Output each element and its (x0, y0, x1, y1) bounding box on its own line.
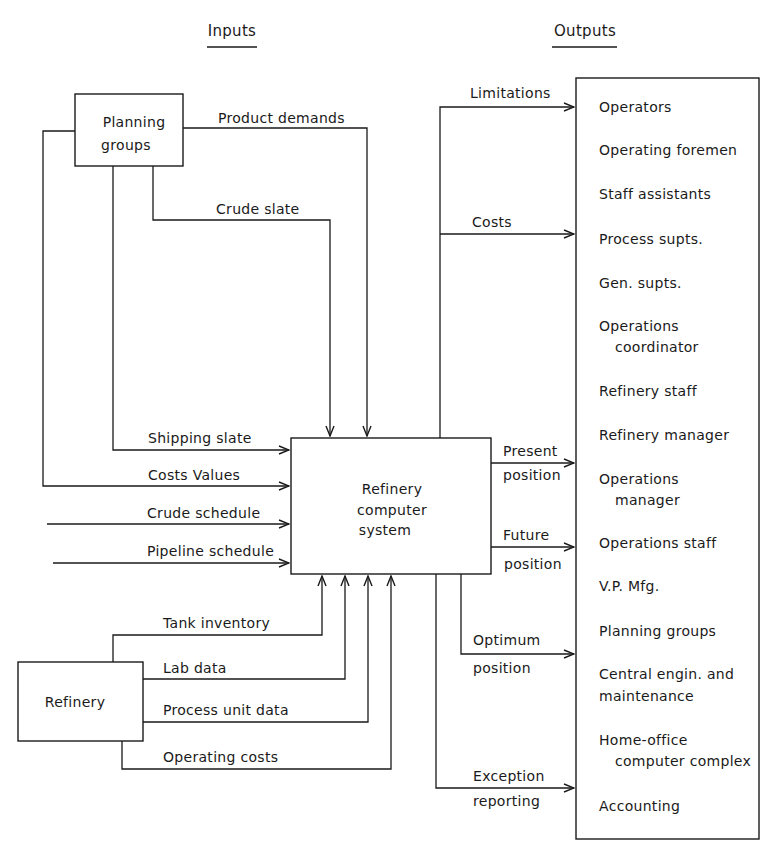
svg-text:Costs Values: Costs Values (148, 467, 240, 483)
flow-product-demands: Product demands (183, 110, 367, 436)
svg-text:Process unit data: Process unit data (163, 702, 289, 718)
svg-text:Tank inventory: Tank inventory (162, 615, 270, 631)
flow-present-position: Present position (491, 443, 574, 483)
svg-text:Pipeline schedule: Pipeline schedule (147, 543, 274, 559)
svg-text:Crude slate: Crude slate (216, 201, 300, 217)
flow-optimum-position: Optimum position (461, 574, 574, 676)
svg-text:position: position (503, 467, 561, 483)
recipient-item: maintenance (599, 688, 694, 704)
recipient-item: Accounting (599, 798, 680, 814)
svg-text:position: position (473, 660, 531, 676)
svg-text:Inputs: Inputs (208, 22, 256, 40)
flow-exception-reporting: Exception reporting (436, 574, 574, 809)
svg-text:computer: computer (357, 502, 427, 518)
recipient-item: Refinery staff (599, 383, 698, 399)
svg-text:Outputs: Outputs (554, 22, 616, 40)
svg-text:Optimum: Optimum (473, 632, 541, 648)
recipient-item: Operators (599, 99, 672, 115)
svg-text:Lab data: Lab data (163, 660, 227, 676)
recipient-item: Home-office (599, 732, 688, 748)
recipient-item: Operations staff (599, 535, 717, 551)
recipient-item: Staff assistants (599, 186, 711, 202)
svg-text:Future: Future (503, 527, 549, 543)
refinery-node: Refinery (18, 662, 143, 741)
flow-pipeline-schedule: Pipeline schedule (53, 543, 289, 563)
recipient-item: Gen. supts. (599, 275, 682, 291)
svg-text:Costs: Costs (472, 214, 512, 230)
flow-future-position: Future position (491, 527, 574, 572)
recipient-item: Operating foremen (599, 142, 737, 158)
flow-crude-slate: Crude slate (153, 166, 330, 436)
recipient-item: V.P. Mfg. (599, 578, 659, 594)
recipient-item: Operations (599, 471, 679, 487)
outputs-header: Outputs (552, 22, 617, 47)
svg-text:Product demands: Product demands (218, 110, 345, 126)
refinery-computer-system-node: Refinery computer system (291, 438, 491, 574)
recipient-item: manager (615, 492, 680, 508)
svg-text:Shipping slate: Shipping slate (148, 430, 252, 446)
flow-limitations: Limitations (440, 85, 574, 438)
svg-text:Limitations: Limitations (470, 85, 551, 101)
recipient-item: Planning groups (599, 623, 716, 639)
recipient-item: Central engin. and (599, 666, 734, 682)
svg-text:position: position (504, 556, 562, 572)
svg-text:Refinery: Refinery (362, 481, 422, 497)
planning-groups-node: Planning groups (75, 94, 183, 166)
flow-tank-inventory: Tank inventory (113, 576, 322, 662)
svg-text:Present: Present (503, 443, 558, 459)
svg-text:groups: groups (101, 137, 151, 153)
svg-text:Operating costs: Operating costs (163, 749, 278, 765)
svg-text:system: system (359, 522, 411, 538)
recipient-item: Refinery manager (599, 427, 729, 443)
svg-text:Crude schedule: Crude schedule (147, 505, 260, 521)
inputs-header: Inputs (207, 22, 257, 47)
flow-process-unit-data: Process unit data (143, 576, 368, 722)
flow-crude-schedule: Crude schedule (47, 505, 289, 524)
svg-text:Refinery: Refinery (45, 694, 105, 710)
recipient-item: Operations (599, 318, 679, 334)
svg-text:reporting: reporting (473, 793, 540, 809)
refinery-information-flow-diagram: Inputs Outputs Planning groups Refinery … (0, 0, 780, 864)
recipient-item: Process supts. (599, 231, 703, 247)
svg-text:Exception: Exception (473, 768, 545, 784)
recipient-item: computer complex (615, 753, 751, 769)
svg-text:Planning: Planning (103, 114, 166, 130)
recipient-item: coordinator (615, 339, 699, 355)
flow-costs: Costs (440, 214, 574, 234)
